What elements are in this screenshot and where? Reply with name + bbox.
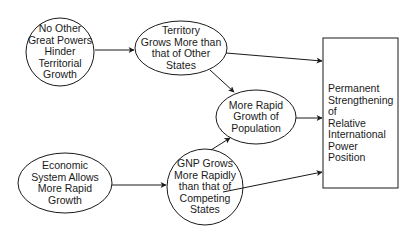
label-territory-grows: Territory Grows More than that of Other … bbox=[135, 24, 227, 72]
label-gnp-grows: GNP Grows More Rapidly than that of Comp… bbox=[167, 156, 243, 218]
label-more-rapid-population: More Rapid Growth of Population bbox=[216, 96, 296, 138]
label-permanent-strengthening: Permanent Strengthening of Relative Inte… bbox=[328, 83, 398, 164]
edge-gnp-to-population bbox=[211, 138, 230, 150]
edge-territory-to-population bbox=[210, 70, 234, 92]
label-economic-system: Economic System Allows More Rapid Growth bbox=[18, 160, 112, 206]
edge-territory-to-position bbox=[226, 53, 322, 61]
label-no-other-great-powers: No Other Great Powers Hinder Territorial… bbox=[26, 22, 94, 82]
